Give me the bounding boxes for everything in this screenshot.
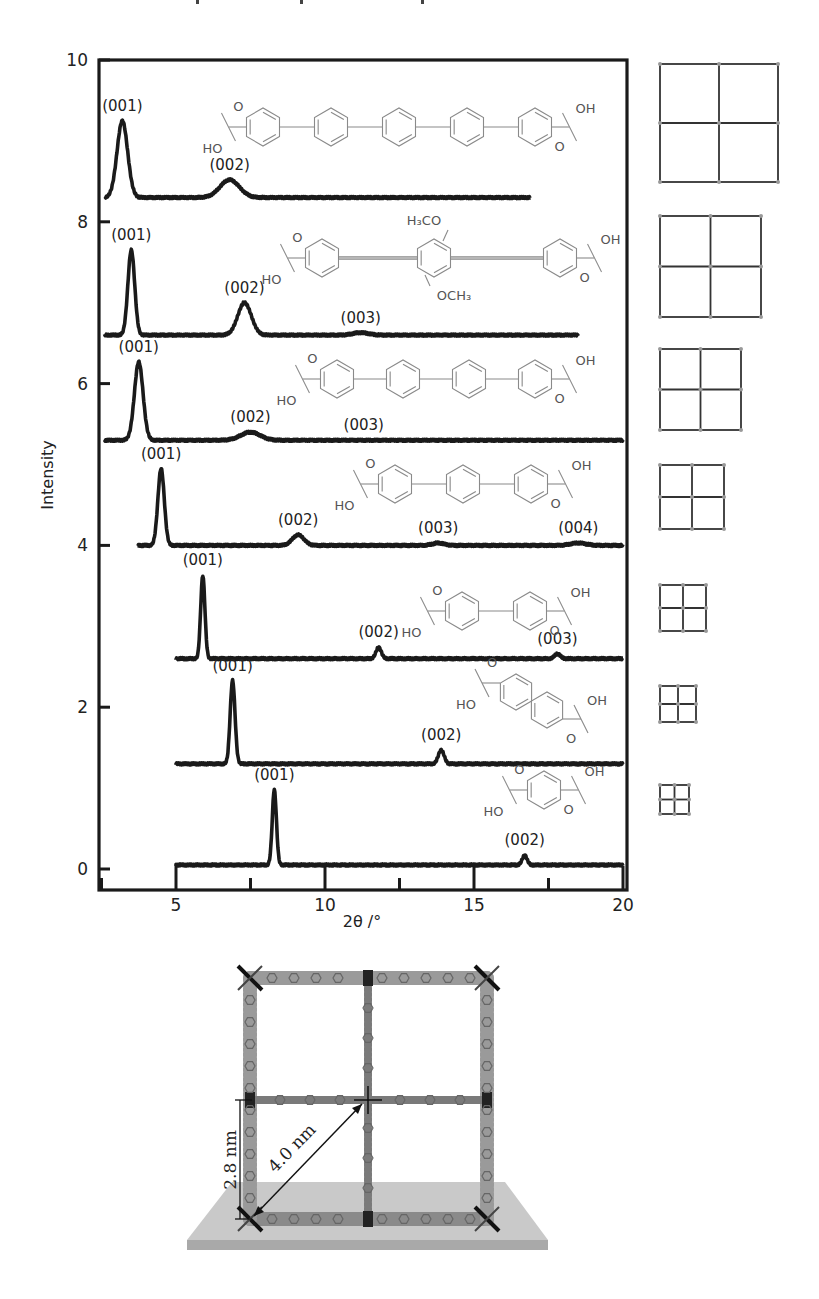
bond bbox=[295, 365, 302, 379]
lattice-node bbox=[699, 388, 703, 392]
benzene-ring bbox=[500, 674, 531, 710]
bond bbox=[280, 244, 287, 258]
lattice-icons bbox=[658, 62, 780, 816]
lattice-node bbox=[681, 583, 685, 587]
benzene-ring bbox=[306, 239, 339, 277]
lattice-node bbox=[699, 428, 703, 432]
lattice-icon bbox=[658, 783, 691, 816]
lattice-node bbox=[717, 62, 721, 66]
double-bond bbox=[399, 134, 412, 141]
double-bond bbox=[535, 134, 548, 141]
lattice-node bbox=[759, 214, 763, 218]
y-tick-label: 2 bbox=[77, 697, 88, 717]
molecule-naphthalene-dicarboxylic: OHOOOH bbox=[456, 655, 607, 746]
lattice-node bbox=[722, 495, 726, 499]
lattice-node bbox=[776, 121, 780, 125]
atom-label: HO bbox=[401, 625, 421, 640]
methoxy-label: OCH₃ bbox=[437, 288, 471, 303]
atom-label: O bbox=[566, 731, 576, 746]
figure-canvas: 0246810 5101520 Intensity 2θ /° (001)(00… bbox=[0, 0, 819, 1299]
lattice-node bbox=[690, 527, 694, 531]
atom-label: O bbox=[365, 456, 375, 471]
atom-label: OH bbox=[576, 101, 596, 116]
atom-label: O bbox=[514, 762, 524, 777]
x-tick-label: 15 bbox=[463, 895, 485, 915]
double-bond bbox=[531, 491, 544, 498]
atom-label: HO bbox=[276, 393, 296, 408]
atom-label: O bbox=[563, 802, 573, 817]
lattice-node bbox=[759, 265, 763, 269]
molecule-quinquephenyl-long: OHOOOH bbox=[202, 99, 595, 156]
peak-label: (002) bbox=[358, 623, 398, 641]
lattice-node bbox=[690, 463, 694, 467]
bond bbox=[595, 258, 602, 272]
bond bbox=[581, 719, 588, 733]
lattice-node bbox=[673, 798, 677, 802]
double-bond bbox=[322, 243, 335, 250]
bond bbox=[221, 113, 228, 127]
benzene-ring bbox=[247, 108, 280, 146]
lattice-node bbox=[704, 606, 708, 610]
lattice-node bbox=[699, 347, 703, 351]
lattice-node bbox=[658, 428, 662, 432]
lattice-node bbox=[658, 495, 662, 499]
substrate-front bbox=[187, 1240, 548, 1250]
lattice-node bbox=[704, 583, 708, 587]
double-bond bbox=[434, 265, 447, 272]
atom-label: HO bbox=[261, 272, 281, 287]
y-tick-label: 0 bbox=[77, 859, 88, 879]
junction-node bbox=[363, 1211, 373, 1227]
atom-label: HO bbox=[456, 697, 476, 712]
double-bond bbox=[434, 243, 447, 250]
double-bond bbox=[467, 112, 480, 119]
lattice-node bbox=[694, 702, 698, 706]
double-bond bbox=[337, 386, 350, 393]
double-bond bbox=[560, 243, 573, 250]
double-bond bbox=[263, 134, 276, 141]
lattice-icon bbox=[658, 463, 726, 531]
methoxy-label: H₃CO bbox=[407, 213, 441, 228]
peak-label: (002) bbox=[421, 726, 461, 744]
peak-label: (002) bbox=[230, 408, 270, 426]
bond bbox=[302, 379, 309, 393]
atom-label: O bbox=[554, 391, 564, 406]
bond bbox=[475, 669, 482, 683]
bond bbox=[570, 127, 577, 141]
double-bond bbox=[535, 386, 548, 393]
double-bond bbox=[547, 717, 559, 724]
lattice-node bbox=[658, 812, 662, 816]
lattice-node bbox=[687, 812, 691, 816]
molecule-terephthalic: OHOOOH bbox=[483, 762, 604, 819]
double-bond bbox=[463, 491, 476, 498]
double-bond bbox=[263, 112, 276, 119]
benzene-ring bbox=[418, 239, 451, 277]
lattice-node bbox=[759, 315, 763, 319]
double-bond bbox=[516, 678, 528, 685]
double-bond bbox=[544, 797, 557, 804]
atom-label: O bbox=[554, 139, 564, 154]
peak-label: (003) bbox=[341, 309, 381, 327]
lattice-node bbox=[694, 684, 698, 688]
junction-node bbox=[363, 970, 373, 986]
lattice-icon bbox=[658, 583, 708, 633]
bond bbox=[353, 470, 360, 484]
atom-label: O bbox=[579, 270, 589, 285]
lattice-node bbox=[658, 527, 662, 531]
double-bond bbox=[331, 112, 344, 119]
lattice-node bbox=[658, 463, 662, 467]
benzene-ring bbox=[544, 239, 577, 277]
bond bbox=[360, 484, 367, 498]
bond bbox=[574, 705, 581, 719]
bond bbox=[570, 379, 577, 393]
peak-label: (001) bbox=[119, 338, 159, 356]
double-bond bbox=[337, 364, 350, 371]
bond bbox=[427, 611, 434, 625]
bond bbox=[588, 244, 595, 258]
bond bbox=[425, 275, 430, 286]
double-bond bbox=[530, 618, 543, 625]
diagonal-label: 4.0 nm bbox=[264, 1119, 320, 1176]
lattice-node bbox=[687, 783, 691, 787]
benzene-ring bbox=[315, 108, 348, 146]
atom-label: HO bbox=[334, 498, 354, 513]
lattice-node bbox=[658, 180, 662, 184]
